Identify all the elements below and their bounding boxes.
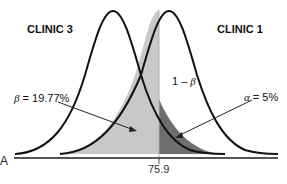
beta-annotation: β = 19.77% <box>14 93 69 104</box>
clinic3-label: CLINIC 3 <box>27 24 73 35</box>
panel-label: A <box>0 155 8 167</box>
alpha-arrow <box>178 100 252 136</box>
power-prefix: 1 – <box>172 75 190 87</box>
power-beta-symbol: β <box>190 75 195 87</box>
alpha-annotation: α = 5% <box>244 92 278 103</box>
alpha-region <box>159 99 222 154</box>
beta-value: = 19.77% <box>19 92 69 104</box>
alpha-value: = 5% <box>250 91 278 103</box>
power-annotation: 1 – β <box>172 76 196 87</box>
cutoff-label: 75.9 <box>148 164 169 175</box>
clinic1-label: CLINIC 1 <box>217 24 263 35</box>
